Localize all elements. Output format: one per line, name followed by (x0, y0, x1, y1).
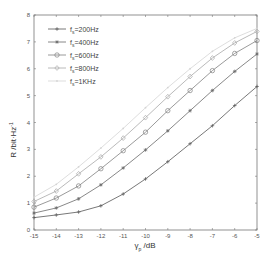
x-tick-label: -6 (232, 233, 238, 239)
y-tick-label: 8 (27, 12, 31, 18)
x-tick-label: -14 (52, 233, 61, 239)
x-tick-label: -10 (141, 233, 150, 239)
y-tick-label: 7 (27, 39, 31, 45)
x-tick-label: -5 (254, 233, 260, 239)
x-tick-label: -9 (165, 233, 171, 239)
plot-area (34, 15, 257, 230)
y-axis-label: R /bit·Hz-1 (8, 122, 18, 158)
x-tick-label: -13 (74, 233, 83, 239)
y-tick-label: 1 (27, 200, 31, 206)
x-tick-label: -15 (30, 233, 39, 239)
x-tick-label: -8 (187, 233, 193, 239)
y-tick-label: 2 (27, 173, 31, 179)
y-tick-label: 4 (27, 120, 31, 126)
line-chart: -15-14-13-12-11-10-9-8-7-6-5 012345678 f… (0, 0, 270, 268)
x-axis-label: γp /dB (134, 241, 155, 252)
y-tick-label: 6 (27, 66, 31, 72)
y-tick-label: 3 (27, 146, 31, 152)
x-tick-label: -7 (210, 233, 216, 239)
y-tick-label: 5 (27, 93, 31, 99)
x-tick-label: -12 (97, 233, 106, 239)
x-tick-label: -11 (119, 233, 128, 239)
